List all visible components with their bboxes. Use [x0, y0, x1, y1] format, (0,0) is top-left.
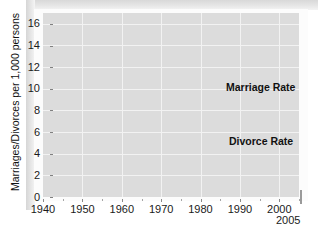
y-tick-label-2: 2: [14, 170, 40, 181]
series-label-marriage-rate: Marriage Rate: [226, 81, 295, 93]
x-tick-label-1950: 1950: [62, 203, 102, 215]
x-tick-mark-1960: [122, 199, 123, 202]
y-tick-mark-12: [50, 67, 53, 68]
x-tick-mark-2000: [279, 199, 280, 202]
series-label-divorce-rate: Divorce Rate: [229, 135, 293, 147]
x-tick-mark-1985: [220, 199, 221, 201]
plot-area: Marriage Rate Divorce Rate: [43, 13, 299, 197]
x-tick-mark-1980: [201, 199, 202, 202]
x-tick-label-1940: 1940: [23, 203, 63, 215]
x-tick-mark-1970: [161, 199, 162, 202]
x-tick-mark-1940: [43, 199, 44, 202]
x-tick-mark-1965: [142, 199, 143, 201]
gridline-x-1990: [240, 13, 241, 197]
x-axis-end-label-2005: 2005: [276, 214, 300, 226]
x-tick-mark-1975: [181, 199, 182, 201]
x-tick-label-1960: 1960: [102, 203, 142, 215]
y-axis-ticks: 0 2 4 6 8 10 12 14 16: [8, 13, 40, 197]
chart-figure: Marriages/Divorces per 1,000 persons Mar…: [0, 0, 318, 235]
gridline-x-2000: [279, 13, 280, 197]
y-tick-label-8: 8: [14, 105, 40, 116]
y-tick-mark-8: [50, 110, 53, 111]
y-tick-label-16: 16: [14, 18, 40, 29]
y-tick-mark-16: [50, 24, 53, 25]
y-tick-mark-2: [50, 175, 53, 176]
x-axis-ticks: 1940 1950 1960 1970 1980 1990 2000: [43, 199, 301, 219]
y-tick-mark-14: [50, 46, 53, 47]
y-tick-mark-10: [50, 89, 53, 90]
gridline-x-1980: [201, 13, 202, 197]
x-tick-mark-1945: [63, 199, 64, 201]
y-tick-label-0: 0: [14, 192, 40, 203]
x-tick-mark-1955: [102, 199, 103, 201]
x-tick-mark-1995: [260, 199, 261, 201]
gridline-x-1950: [82, 13, 83, 197]
y-tick-mark-0: [50, 197, 53, 198]
y-tick-label-12: 12: [14, 62, 40, 73]
x-tick-label-1990: 1990: [220, 203, 260, 215]
gridline-x-1970: [161, 13, 162, 197]
gridline-x-1960: [122, 13, 123, 197]
y-tick-mark-6: [50, 132, 53, 133]
y-tick-label-6: 6: [14, 127, 40, 138]
x-tick-mark-1990: [240, 199, 241, 202]
x-tick-label-1970: 1970: [141, 203, 181, 215]
y-tick-label-4: 4: [14, 148, 40, 159]
y-tick-label-14: 14: [14, 40, 40, 51]
x-axis-end-tick-2005: [300, 190, 302, 204]
x-tick-label-1980: 1980: [181, 203, 221, 215]
y-tick-label-10: 10: [14, 83, 40, 94]
y-tick-mark-4: [50, 154, 53, 155]
x-tick-mark-1950: [82, 199, 83, 202]
